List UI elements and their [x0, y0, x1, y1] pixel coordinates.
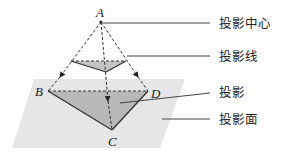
callout-projection: 投影 [219, 85, 245, 100]
projection-diagram: A B D C 投影中心 投影线 投影 投影面 [0, 0, 290, 159]
label-b: B [35, 84, 43, 99]
callout-projection-center: 投影中心 [219, 16, 271, 31]
callout-projection-plane: 投影面 [219, 112, 258, 127]
callout-projection-line: 投影线 [219, 49, 258, 64]
label-a: A [95, 5, 104, 20]
point-a-dot [100, 21, 103, 24]
object-triangle [71, 61, 126, 72]
label-c: C [108, 134, 117, 149]
